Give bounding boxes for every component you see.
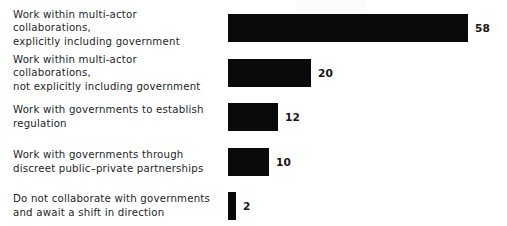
bar-value-label: 12: [285, 111, 300, 123]
bar-group: 20: [228, 53, 333, 93]
chart-row: Work with governments to establish regul…: [0, 97, 507, 137]
bar: [228, 148, 269, 176]
bar-group: 10: [228, 142, 291, 182]
bar: [228, 14, 468, 42]
bar: [228, 59, 311, 87]
bar-group: 12: [228, 97, 300, 137]
chart-row: Work with governments through discreet p…: [0, 142, 507, 182]
bar: [228, 103, 278, 131]
category-label: Work within multi-actor collaborations, …: [13, 8, 218, 49]
category-label: Work with governments to establish regul…: [13, 103, 218, 130]
bar-value-label: 10: [276, 156, 291, 168]
chart-row: Do not collaborate with governments and …: [0, 186, 507, 226]
chart-row: Work within multi-actor collaborations, …: [0, 8, 507, 48]
bar: [228, 192, 236, 220]
chart-row: Work within multi-actor collaborations, …: [0, 53, 507, 93]
bar-value-label: 2: [243, 200, 250, 212]
category-label: Do not collaborate with governments and …: [13, 192, 218, 219]
bar-group: 2: [228, 186, 250, 226]
bar-group: 58: [228, 8, 490, 48]
horizontal-bar-chart: Work within multi-actor collaborations, …: [0, 0, 507, 226]
bar-value-label: 58: [475, 22, 490, 34]
bar-value-label: 20: [318, 67, 333, 79]
category-label: Work with governments through discreet p…: [13, 148, 218, 175]
category-label: Work within multi-actor collaborations, …: [13, 53, 218, 94]
